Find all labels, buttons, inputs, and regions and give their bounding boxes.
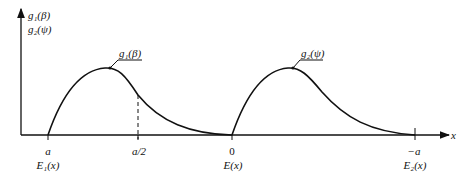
tick-label-zero: 0 — [229, 145, 235, 157]
tick-label-neg-a: −a — [408, 145, 421, 157]
leader-g1-dot — [108, 66, 111, 69]
tick-label-half-a: a/2 — [132, 145, 147, 157]
leader-g2-dot — [291, 66, 294, 69]
tick-label-a: a — [45, 145, 51, 157]
curve-label-g2: g₂(ψ) — [301, 47, 325, 60]
y-axis-label-g1: g₁(β) — [28, 9, 50, 22]
y-axis-label-g2: g₂(ψ) — [28, 23, 52, 36]
point-label-e1: E₁(x) — [36, 159, 60, 172]
x-axis-label: x — [450, 129, 456, 141]
leader-g1 — [110, 60, 118, 68]
curve-g2-psi — [232, 68, 415, 135]
point-label-e2: E₂(x) — [403, 159, 427, 172]
curve-label-g1: g₁(β) — [119, 47, 141, 60]
point-label-e: E(x) — [223, 159, 243, 172]
curve-g1-beta — [48, 68, 232, 135]
distribution-diagram: g₁(β) g₂(ψ) g₁(β) g₂(ψ) x a a/2 0 −a E₁(… — [0, 0, 457, 178]
